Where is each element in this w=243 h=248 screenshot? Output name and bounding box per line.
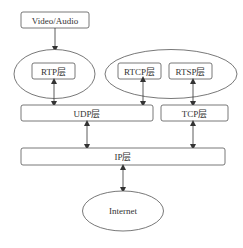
udp-label: UDP层 (73, 109, 100, 119)
video-audio-node: Video/Audio (21, 12, 89, 28)
udp-node: UDP层 (21, 105, 153, 121)
ip-label: IP层 (114, 152, 131, 162)
rtp-node: RTP层 (32, 63, 75, 79)
video-audio-label: Video/Audio (32, 16, 79, 26)
rtp-label: RTP层 (41, 67, 66, 77)
rtcp-label: RTCP层 (124, 67, 155, 77)
tcp-node: TCP层 (161, 105, 228, 121)
rtcp-node: RTCP层 (118, 63, 161, 79)
internet-node: Internet (83, 191, 164, 231)
rtsp-node: RTSP层 (169, 63, 212, 79)
protocol-stack-diagram: Video/Audio RTP层 RTCP层 RTSP层 UDP层 TCP层 I… (0, 0, 243, 248)
internet-label: Internet (109, 206, 137, 216)
rtsp-label: RTSP层 (176, 67, 206, 77)
tcp-label: TCP层 (182, 109, 208, 119)
ip-node: IP层 (21, 148, 225, 165)
